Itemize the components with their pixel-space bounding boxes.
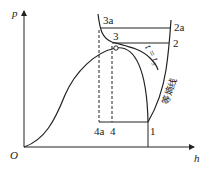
label-3: 3 [113, 30, 119, 42]
saturation-curve [24, 48, 148, 147]
critical-point [114, 46, 118, 50]
isentrope-curve [148, 20, 171, 122]
label-3a: 3a [103, 14, 114, 26]
label-4a: 4a [94, 125, 105, 137]
ph-diagram: p h O 3a 2a 3 2 1 4a 4 t = t₃ 等熵线 [0, 0, 207, 176]
label-2: 2 [173, 37, 179, 49]
label-2a: 2a [174, 21, 185, 33]
label-1: 1 [150, 125, 156, 137]
label-4: 4 [110, 125, 116, 137]
x-axis-label: h [194, 152, 200, 164]
y-axis-label: p [11, 7, 18, 19]
origin-label: O [10, 149, 18, 161]
isentrope-label: 等熵线 [159, 77, 178, 106]
